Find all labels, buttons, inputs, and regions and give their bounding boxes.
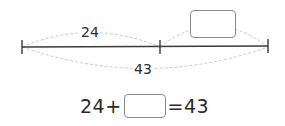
number-line	[22, 46, 268, 47]
part-label-24: 24	[80, 25, 100, 39]
total-label-43: 43	[133, 62, 153, 76]
equation: 24+ =43	[80, 93, 209, 119]
answer-box-diagram[interactable]	[190, 10, 236, 38]
equation-left: 24+	[80, 95, 122, 117]
equation-right: =43	[168, 95, 210, 117]
answer-box-equation[interactable]	[124, 94, 166, 118]
